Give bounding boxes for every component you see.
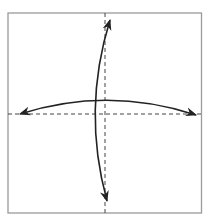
diagram-canvas (0, 0, 207, 220)
origami-diagram (0, 0, 207, 220)
